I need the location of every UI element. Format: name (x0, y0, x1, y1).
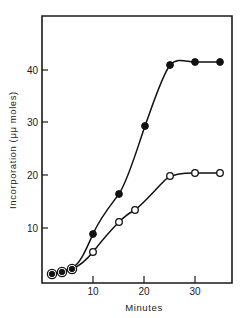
y-tick-label-10: 10 (27, 223, 39, 234)
x-tick-label-20: 20 (138, 286, 150, 297)
y-axis-title: Incorporation (μμ moles) (7, 91, 18, 209)
incorporation-time-course-chart: 40 30 20 10 10 20 30 Minutes Incorporati… (0, 0, 246, 318)
x-tick-label-30: 30 (189, 286, 201, 297)
data-point-open-30min (192, 170, 199, 177)
y-axis-tick-labels: 40 30 20 10 (27, 65, 39, 234)
data-point-open-15min (116, 219, 123, 226)
overlap-dot-2 (59, 269, 64, 274)
x-axis-title: Minutes (125, 302, 162, 313)
y-axis-ticks (42, 70, 48, 228)
data-point-open-35min (217, 170, 224, 177)
curve-filled-series (52, 60, 220, 274)
y-tick-label-20: 20 (27, 170, 39, 181)
overlap-dot-1 (49, 271, 54, 276)
open-series-markers (90, 170, 224, 256)
data-point-filled-15min (116, 191, 123, 198)
chart-figure: 40 30 20 10 10 20 30 Minutes Incorporati… (0, 0, 246, 318)
x-tick-label-10: 10 (87, 286, 99, 297)
filled-series-markers (90, 59, 224, 238)
x-axis-tick-labels: 10 20 30 (87, 286, 201, 297)
data-point-filled-35min (217, 59, 224, 66)
data-curves (52, 60, 220, 274)
data-point-filled-20min (142, 123, 149, 130)
overlap-dot-3 (69, 266, 74, 271)
data-point-filled-25min (167, 62, 174, 69)
data-point-filled-10min (90, 231, 97, 238)
overlapping-start-markers (47, 264, 76, 278)
data-point-open-10min (90, 249, 97, 256)
data-point-open-18min (132, 207, 139, 214)
y-tick-label-40: 40 (27, 65, 39, 76)
data-point-filled-30min (192, 59, 199, 66)
y-tick-label-30: 30 (27, 117, 39, 128)
data-point-open-25min (167, 173, 174, 180)
x-axis-ticks (93, 276, 195, 283)
curve-open-series (52, 173, 220, 274)
